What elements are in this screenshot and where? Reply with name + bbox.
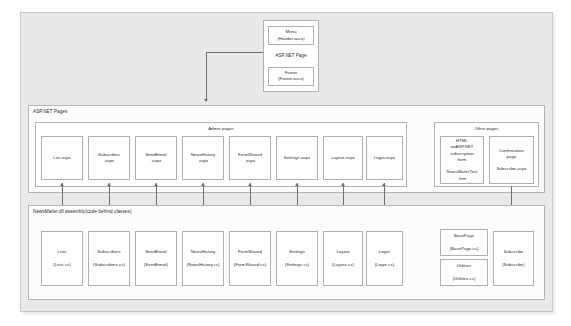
connector-arrow-up-layout — [341, 183, 345, 186]
connector-arrow-up-settings — [295, 183, 299, 186]
page-label-login: Login.aspx — [374, 155, 395, 161]
aspnet-page-container: Menu (Header.ascx) ASP.NET Page Footer (… — [263, 20, 319, 92]
connector-arrow-up-sendemail — [154, 183, 158, 186]
page-label-layout: Layout.aspx — [331, 155, 355, 161]
class-label-subscribe: Subscribe (Subscribe) — [502, 249, 525, 268]
page-box-login[interactable]: Login.aspx — [366, 136, 403, 180]
class-box-layout[interactable]: Layout (Layout.cs) — [323, 231, 363, 286]
class-label-utilities: Utilities (Utilities.cs) — [453, 263, 476, 282]
class-box-formwizard[interactable]: FormWizard (FormWizard.cs) — [229, 231, 271, 286]
aspnet-pages-region-title: ASP.NET Pages — [33, 109, 67, 114]
class-label-newshistory: NewsHistory (NewsHistory.cs) — [187, 249, 220, 268]
class-label-subscribers: Subscribers (Subscribers.cs) — [93, 249, 125, 268]
menu-usercontrol-box: Menu (Header.ascx) — [268, 26, 314, 45]
page-box-list[interactable]: List.aspx — [41, 136, 83, 180]
menu-usercontrol-label: Menu (Header.ascx) — [277, 29, 304, 41]
class-box-utilities[interactable]: Utilities (Utilities.cs) — [440, 259, 488, 286]
class-label-basepage: BasePage (BasePage.cs) — [450, 233, 479, 252]
page-box-settings[interactable]: Settings.aspx — [276, 136, 318, 180]
page-label-confirmation: Confirmation page Subscribe.aspx — [496, 148, 526, 173]
page-box-confirmation[interactable]: Confirmation page Subscribe.aspx — [489, 136, 534, 184]
class-label-settings: Settings (Settings.cs) — [285, 249, 310, 268]
class-label-layout: Layout (Layout.cs) — [332, 249, 354, 268]
page-label-subscribes: Subscribes .aspx — [98, 152, 120, 164]
page-box-html-subscription-form[interactable]: HTML onASP.NET subscription form NewsMai… — [440, 136, 484, 184]
class-box-basepage[interactable]: BasePage (BasePage.cs) — [440, 229, 488, 256]
connector-top-arrowhead — [204, 99, 208, 102]
page-label-formwizard: FormWizard .aspx — [238, 152, 262, 164]
class-box-subscribers[interactable]: Subscribers (Subscribers.cs) — [88, 231, 130, 286]
page-box-newshistory[interactable]: NewsHistory .aspx — [182, 136, 224, 180]
diagram-canvas: Menu (Header.ascx) ASP.NET Page Footer (… — [0, 0, 571, 326]
page-box-sendemail[interactable]: SendEmail .aspx — [135, 136, 177, 180]
aspnet-page-label: ASP.NET Page — [276, 53, 307, 60]
connector-top-vertical — [206, 52, 207, 100]
class-label-sendemail: SendEmail (SendEmail) — [144, 249, 168, 268]
connector-arrow-up-list — [60, 183, 64, 186]
page-box-layout[interactable]: Layout.aspx — [323, 136, 363, 180]
footer-usercontrol-label: Footer (Footer.ascx) — [278, 70, 304, 82]
page-label-sendemail: SendEmail .aspx — [145, 152, 166, 164]
class-label-lists: Lists (Lists.cs) — [53, 249, 71, 268]
page-label-html-subscription-form: HTML onASP.NET subscription form NewsMai… — [446, 138, 477, 182]
admin-pages-group-title: Admin pages — [35, 126, 407, 131]
class-box-lists[interactable]: Lists (Lists.cs) — [41, 231, 83, 286]
class-label-login: Login (Login.cs) — [375, 249, 394, 268]
connector-top-horizontal — [206, 52, 263, 53]
class-box-sendemail[interactable]: SendEmail (SendEmail) — [135, 231, 177, 286]
class-box-settings[interactable]: Settings (Settings.cs) — [276, 231, 318, 286]
page-label-newshistory: NewsHistory .aspx — [191, 152, 216, 164]
connector-arrow-up-subscribes — [107, 183, 111, 186]
class-label-formwizard: FormWizard (FormWizard.cs) — [234, 249, 267, 268]
page-box-formwizard[interactable]: FormWizard .aspx — [229, 136, 271, 180]
class-box-login[interactable]: Login (Login.cs) — [366, 231, 403, 286]
page-label-list: List.aspx — [53, 155, 70, 161]
other-pages-group-title: Other pages — [434, 126, 539, 131]
page-box-subscribes[interactable]: Subscribes .aspx — [88, 136, 130, 180]
class-box-newshistory[interactable]: NewsHistory (NewsHistory.cs) — [182, 231, 224, 286]
connector-arrow-up-login — [382, 183, 386, 186]
connector-arrow-up-formwizard — [248, 183, 252, 186]
assembly-region-title: NewsMailer.dll assembly(code behind clas… — [33, 209, 132, 214]
footer-usercontrol-box: Footer (Footer.ascx) — [268, 67, 314, 86]
connector-arrow-up-newshistory — [201, 183, 205, 186]
page-label-settings: Settings.aspx — [284, 155, 310, 161]
class-box-subscribe[interactable]: Subscribe (Subscribe) — [493, 231, 534, 286]
